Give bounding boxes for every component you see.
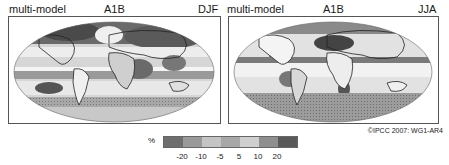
- colorbar-tick: -10: [195, 152, 207, 161]
- panel-2-season-label: JJA: [418, 3, 436, 15]
- colorbar-tick: -5: [216, 152, 223, 161]
- legend-unit-label: %: [148, 136, 155, 145]
- colorbar-tick: 10: [254, 152, 263, 161]
- colorbar-bin-3: [202, 137, 221, 147]
- colorbar-tick: -20: [176, 152, 188, 161]
- colorbar-bin-1: [164, 137, 183, 147]
- colorbar-bin-2: [183, 137, 202, 147]
- colorbar-bin-7: [278, 137, 297, 147]
- colorbar-bin-5: [240, 137, 259, 147]
- panel-1-season-label: DJF: [198, 3, 218, 15]
- world-map-djf: [9, 17, 220, 123]
- panel-2-model-label: multi-model: [227, 3, 284, 15]
- colorbar-bin-4: [221, 137, 240, 147]
- colorbar-legend: [163, 136, 298, 148]
- map-panel-djf: [8, 16, 221, 124]
- colorbar-tick: 5: [237, 152, 241, 161]
- colorbar-tick: 20: [273, 152, 282, 161]
- copyright-notice: ©IPCC 2007: WG1-AR4: [368, 127, 443, 134]
- panel-2-scenario-label: A1B: [323, 3, 344, 15]
- panel-1-model-label: multi-model: [9, 3, 66, 15]
- map-panel-jja: [228, 16, 439, 124]
- world-map-jja: [229, 17, 438, 123]
- colorbar-bin-6: [259, 137, 278, 147]
- panel-1-scenario-label: A1B: [104, 3, 125, 15]
